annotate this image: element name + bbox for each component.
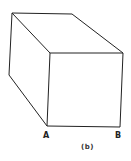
bottom-left-edge	[9, 75, 47, 126]
vertex-label-a: A	[43, 132, 49, 140]
figure-caption: (b)	[81, 144, 94, 151]
top-right-edge	[72, 14, 123, 53]
top-back-edge	[12, 13, 72, 14]
cube-diagram	[0, 0, 131, 161]
vertex-label-b: B	[115, 132, 121, 140]
top-left-edge	[12, 13, 50, 53]
left-back-edge	[9, 13, 12, 75]
front-bottom-edge	[47, 126, 120, 127]
front-right-edge	[120, 53, 123, 127]
front-left-edge	[47, 53, 50, 126]
